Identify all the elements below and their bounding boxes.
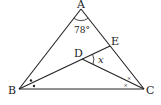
angle-c-mark-1: × bbox=[127, 75, 131, 81]
segment-dc bbox=[82, 59, 144, 89]
triangle-diagram: × × A B C D E 78° x bbox=[0, 0, 161, 105]
segment-be bbox=[19, 46, 110, 89]
label-e: E bbox=[111, 35, 119, 48]
label-c: C bbox=[146, 84, 154, 97]
side-ac bbox=[81, 9, 144, 89]
angle-a-value: 78° bbox=[74, 25, 90, 35]
angle-b-mark-2 bbox=[33, 85, 35, 87]
angle-x-arc bbox=[93, 54, 94, 64]
angle-x-label: x bbox=[98, 54, 104, 65]
angle-c-mark-2: × bbox=[124, 82, 128, 88]
angle-b-mark-1 bbox=[30, 79, 32, 81]
label-b: B bbox=[8, 84, 16, 97]
angle-a-arc bbox=[74, 18, 88, 20]
label-d: D bbox=[74, 47, 83, 60]
label-a: A bbox=[76, 0, 86, 11]
side-ab bbox=[19, 9, 81, 89]
